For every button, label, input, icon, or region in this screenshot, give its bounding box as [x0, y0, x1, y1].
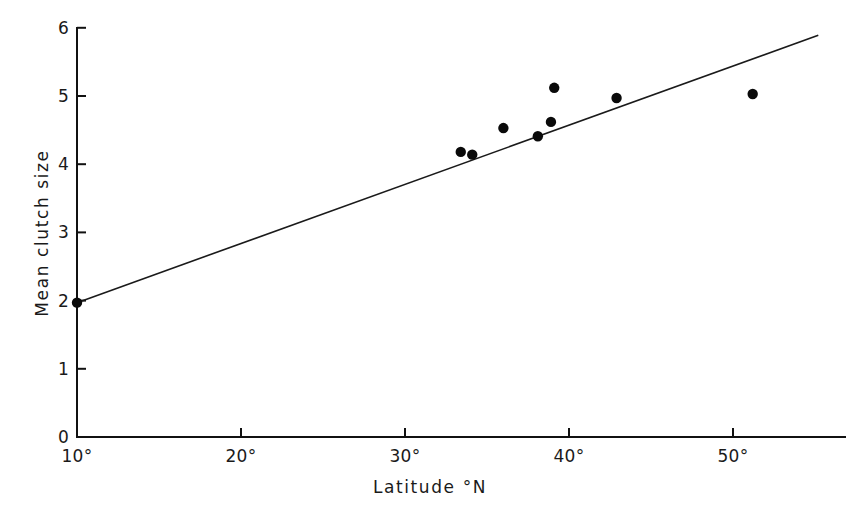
data-point: [747, 89, 757, 99]
data-point: [498, 123, 508, 133]
x-tick-label-10°: 10°: [61, 446, 92, 466]
axes-group: [77, 28, 845, 437]
y-tick-label-3: 3: [58, 222, 69, 242]
y-tick-label-2: 2: [58, 291, 69, 311]
y-tick-label-6: 6: [58, 18, 69, 38]
y-tick-label-1: 1: [58, 359, 69, 379]
y-tick-label-0: 0: [58, 427, 69, 447]
x-tick-label-30°: 30°: [389, 446, 420, 466]
data-point: [72, 297, 82, 307]
data-point: [456, 147, 466, 157]
y-tick-label-5: 5: [58, 86, 69, 106]
regression-line-segment: [77, 35, 818, 302]
scatter-plot-canvas: [0, 0, 855, 511]
data-point: [546, 117, 556, 127]
x-tick-label-50°: 50°: [717, 446, 748, 466]
x-tick-label-20°: 20°: [225, 446, 256, 466]
data-point: [467, 149, 477, 159]
y-axis-title: Mean clutch size: [32, 149, 52, 316]
y-tick-label-4: 4: [58, 154, 69, 174]
x-axis-ticks: [77, 428, 733, 437]
data-points-group: [72, 83, 758, 308]
x-axis-title: Latitude °N: [373, 477, 487, 497]
data-point: [611, 93, 621, 103]
regression-line: [77, 35, 818, 302]
data-point: [533, 131, 543, 141]
y-axis-ticks: [77, 28, 86, 437]
chart-figure: 012345610°20°30°40°50° Mean clutch size …: [0, 0, 855, 511]
x-tick-label-40°: 40°: [553, 446, 584, 466]
data-point: [549, 83, 559, 93]
